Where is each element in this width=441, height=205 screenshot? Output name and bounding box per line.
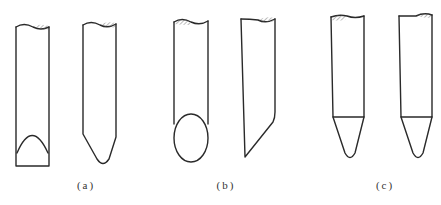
rod-c-conical-left [331,15,364,158]
label-a: (a) [71,179,101,191]
rod-b-angled-bevel [241,17,275,157]
cross-section-hatch [416,13,432,18]
rod-a-tapered-point [83,22,116,163]
label-b: (b) [211,179,241,191]
rod-b-elliptical-face [174,19,208,162]
rod-a-flat-parabolic [16,25,49,167]
label-c: (c) [370,179,400,191]
group-a [16,22,116,166]
tip-shapes-diagram [0,0,441,205]
group-b [174,17,275,162]
cross-section-hatch [33,25,49,30]
cross-section-hatch [100,22,116,27]
rod-c-conical-right [399,13,432,158]
group-c [331,13,432,158]
